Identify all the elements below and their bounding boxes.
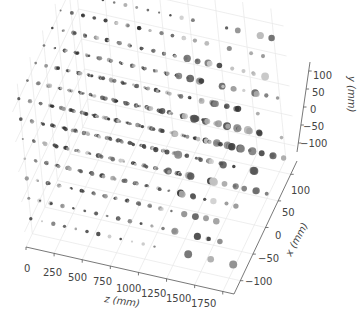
z-axis-title: z (mm) xyxy=(103,293,141,309)
data-point xyxy=(73,31,77,35)
data-point xyxy=(222,181,228,187)
data-point xyxy=(141,242,145,246)
data-point xyxy=(196,137,201,142)
scatter-3d-plot[interactable]: 0 250 500 750 1000 1250 1500 1750 z (mm)… xyxy=(0,0,359,321)
data-point xyxy=(215,120,222,127)
data-point xyxy=(54,144,58,148)
data-point xyxy=(269,152,276,159)
data-point xyxy=(199,98,205,104)
data-point xyxy=(203,215,209,221)
data-point xyxy=(96,232,100,236)
data-point xyxy=(233,183,239,189)
data-point xyxy=(161,227,165,231)
data-point xyxy=(265,192,269,196)
x-tick-label: −100 xyxy=(245,276,272,287)
data-point xyxy=(225,124,230,129)
data-point xyxy=(158,90,160,92)
data-point xyxy=(37,81,41,85)
data-point xyxy=(264,93,268,97)
data-point xyxy=(182,36,186,40)
data-point xyxy=(175,55,177,57)
data-point xyxy=(54,47,56,49)
data-point xyxy=(167,170,171,174)
data-point xyxy=(51,104,55,108)
grid-line xyxy=(130,0,145,127)
data-point xyxy=(235,28,241,34)
data-point xyxy=(65,49,68,52)
data-point xyxy=(120,140,124,144)
data-point xyxy=(79,72,82,75)
data-point xyxy=(85,230,89,234)
data-point xyxy=(160,207,164,211)
data-point xyxy=(60,204,65,209)
data-point xyxy=(84,112,88,116)
data-point xyxy=(148,186,150,188)
data-point xyxy=(268,35,274,41)
x-tick-label: −50 xyxy=(258,253,279,264)
data-point xyxy=(89,153,91,155)
data-point xyxy=(220,161,227,168)
data-point xyxy=(174,151,182,159)
data-point xyxy=(46,163,48,165)
data-point xyxy=(113,1,115,3)
data-point xyxy=(41,220,43,222)
data-point xyxy=(224,103,230,109)
data-point xyxy=(182,113,188,119)
data-point xyxy=(87,133,90,136)
data-point xyxy=(138,105,141,108)
data-point xyxy=(51,222,55,226)
z-tick-label: 1750 xyxy=(191,298,216,309)
data-point xyxy=(96,115,99,118)
data-point xyxy=(203,198,206,201)
data-point xyxy=(153,147,158,152)
data-point xyxy=(127,24,130,27)
data-point xyxy=(213,218,219,224)
data-point xyxy=(160,31,164,35)
data-point xyxy=(253,187,260,194)
data-point xyxy=(66,147,69,150)
data-point xyxy=(168,92,172,96)
data-point xyxy=(27,197,30,200)
data-point xyxy=(134,163,137,166)
data-point xyxy=(71,90,73,92)
data-point xyxy=(93,16,97,20)
data-point xyxy=(248,147,256,155)
data-point xyxy=(185,154,189,158)
data-point xyxy=(71,188,73,190)
data-point xyxy=(128,219,133,224)
data-point xyxy=(191,18,195,22)
data-point xyxy=(208,140,212,144)
data-point xyxy=(118,41,122,45)
data-point xyxy=(98,135,101,138)
data-point xyxy=(82,92,84,94)
data-point xyxy=(184,55,191,62)
grid-line xyxy=(223,159,286,292)
data-point xyxy=(187,173,194,180)
data-point xyxy=(51,27,54,30)
data-point xyxy=(48,83,53,88)
data-point xyxy=(135,84,140,89)
data-point xyxy=(209,159,214,164)
data-point xyxy=(29,217,32,220)
data-point xyxy=(59,185,61,187)
data-point xyxy=(88,54,91,57)
y-tick-label: 0 xyxy=(310,104,316,115)
data-point xyxy=(106,215,108,217)
data-point xyxy=(169,14,171,16)
grid-line xyxy=(45,207,253,254)
data-point xyxy=(123,178,128,183)
data-point xyxy=(132,64,135,67)
y-tick-label: 100 xyxy=(313,70,332,81)
data-point xyxy=(22,138,24,140)
data-point xyxy=(149,205,152,208)
x-tick-label: 100 xyxy=(291,185,310,196)
data-point xyxy=(103,194,108,199)
data-point xyxy=(109,138,112,141)
data-point xyxy=(204,118,210,124)
data-point xyxy=(143,67,146,70)
data-point xyxy=(43,142,48,147)
data-point xyxy=(230,67,234,71)
data-point xyxy=(117,217,121,221)
z-tick-label: 500 xyxy=(68,272,87,283)
data-point xyxy=(102,175,106,179)
